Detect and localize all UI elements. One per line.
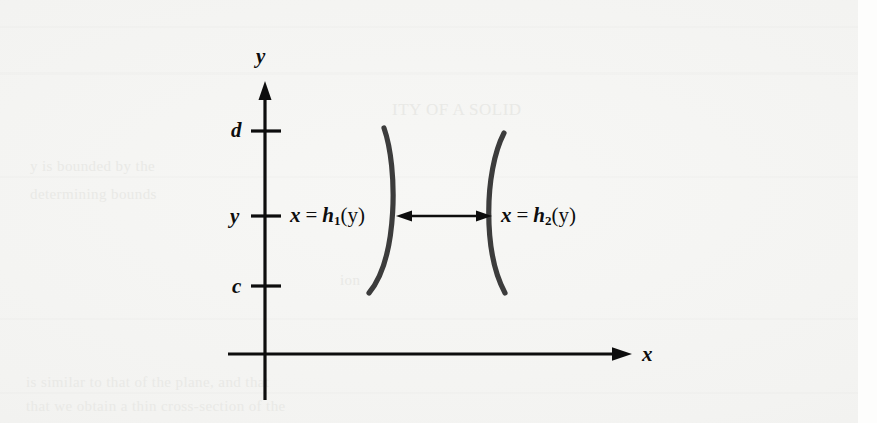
left-boundary-curve bbox=[369, 128, 393, 293]
y-axis-label: y bbox=[256, 44, 265, 69]
x-axis-label: x bbox=[642, 342, 653, 367]
left-curve-equation-label: x=h1(y) bbox=[290, 203, 365, 229]
x-axis bbox=[228, 347, 632, 361]
tick-label-c: c bbox=[232, 274, 241, 299]
left-eq-operator: = bbox=[301, 203, 323, 227]
figure-line-art bbox=[0, 0, 877, 423]
right-eq-argument: (y) bbox=[552, 203, 577, 227]
right-eq-operator: = bbox=[512, 203, 534, 227]
y-axis-arrowhead-icon bbox=[259, 81, 272, 100]
y-axis bbox=[259, 81, 272, 400]
x-axis-arrowhead-icon bbox=[612, 347, 632, 361]
left-eq-variable: x bbox=[290, 203, 301, 227]
right-curve-equation-label: x=h2(y) bbox=[501, 203, 576, 229]
tick-label-y: y bbox=[230, 204, 239, 229]
width-double-arrow bbox=[396, 211, 492, 222]
right-eq-variable: x bbox=[501, 203, 512, 227]
left-eq-argument: (y) bbox=[341, 203, 366, 227]
figure-page: ITY OF A SOLID y is bounded by the deter… bbox=[0, 0, 877, 423]
arrowhead-left-icon bbox=[396, 211, 412, 222]
right-eq-function: h bbox=[533, 203, 545, 227]
tick-label-d: d bbox=[231, 118, 242, 143]
left-eq-function: h bbox=[322, 203, 334, 227]
